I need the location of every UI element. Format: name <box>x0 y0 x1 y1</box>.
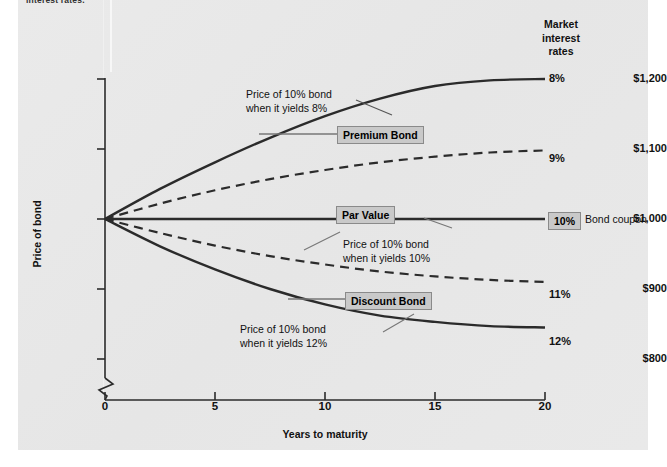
y-axis-title: Price of bond <box>31 179 43 289</box>
discount-annotation-line2: when it yields 12% <box>240 337 327 351</box>
legend-title: Market interest rates <box>519 18 603 59</box>
legend-title-line1: Market <box>519 18 603 32</box>
x-tick-label-20: 20 <box>525 400 565 412</box>
par-value-box: Par Value <box>336 206 395 224</box>
y-axis-break <box>99 378 113 400</box>
bond-coupon-text: Bond coupon <box>585 213 647 225</box>
rate-label-11: 11% <box>549 288 570 300</box>
premium-annotation-line1: Price of 10% bond <box>246 88 332 102</box>
x-tick-label-10: 10 <box>305 400 345 412</box>
series-line-9 <box>105 150 545 219</box>
rate-label-12: 12% <box>549 335 571 347</box>
leader-premium-text <box>356 100 392 115</box>
discount-annotation: Price of 10% bond when it yields 12% <box>240 323 327 350</box>
y-tick-label-1100: $1,100 <box>593 142 667 154</box>
rate-label-8: 8% <box>549 72 565 84</box>
par-annotation-line2: when it yields 10% <box>343 252 430 266</box>
legend-title-line3: rates <box>519 45 603 59</box>
figure-root: interest rates. $1,200 $1,100 $1,00 <box>0 0 667 467</box>
x-tick-label-0: 0 <box>85 400 125 412</box>
x-tick-label-15: 15 <box>415 400 455 412</box>
rate-label-9: 9% <box>549 152 565 164</box>
y-tick-label-1200: $1,200 <box>593 72 667 84</box>
par-annotation: Price of 10% bond when it yields 10% <box>343 238 430 265</box>
discount-annotation-line1: Price of 10% bond <box>240 323 327 337</box>
y-tick-label-800: $800 <box>593 352 667 364</box>
premium-bond-box: Premium Bond <box>337 126 424 144</box>
leader-par-text <box>304 232 340 250</box>
discount-bond-box: Discount Bond <box>345 292 432 310</box>
chart-svg <box>0 0 667 467</box>
x-axis-title: Years to maturity <box>180 428 470 440</box>
par-annotation-line1: Price of 10% bond <box>343 238 430 252</box>
legend-title-line2: interest <box>519 32 603 46</box>
y-tick-label-900: $900 <box>593 282 667 294</box>
chart-curves <box>105 79 545 328</box>
premium-annotation-line2: when it yields 8% <box>246 102 332 116</box>
premium-annotation: Price of 10% bond when it yields 8% <box>246 88 332 115</box>
rate-label-10-box: 10% <box>548 212 581 230</box>
x-tick-label-5: 5 <box>195 400 235 412</box>
